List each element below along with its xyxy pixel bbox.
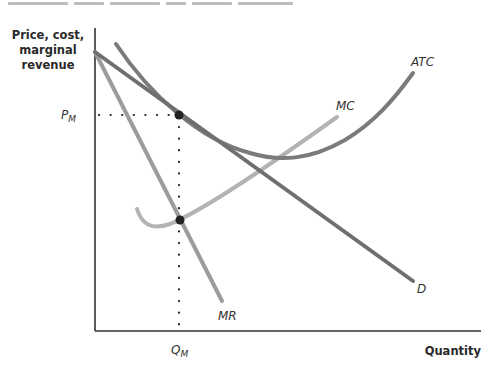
pm-label: PM	[61, 108, 76, 124]
d-label: D	[417, 282, 426, 296]
qm-label-sub: M	[180, 349, 188, 359]
mr-curve	[95, 52, 222, 301]
mc-label: MC	[336, 99, 355, 113]
mr-label: MR	[218, 309, 237, 323]
atc-label: ATC	[410, 55, 435, 69]
monopoly-chart: ATC MC D MR PM QM Quantity	[0, 0, 493, 374]
x-axis-label: Quantity	[425, 344, 482, 358]
pm-label-sub: M	[68, 114, 76, 124]
qm-label-main: Q	[171, 343, 180, 357]
monopoly-price-point	[175, 111, 184, 120]
mc-curve	[137, 117, 337, 226]
demand-curve	[95, 52, 413, 281]
qm-label: QM	[171, 343, 188, 359]
mr-equals-mc-point	[176, 216, 185, 225]
